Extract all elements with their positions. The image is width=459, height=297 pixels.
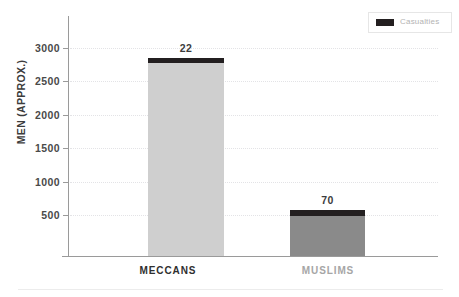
legend-entry-casualties[interactable]: Casualties [376,18,439,26]
bar-muslims[interactable]: 70 [290,16,365,256]
y-tick-2000: 2000 [8,110,60,121]
category-label-muslims: MUSLIMS [270,266,386,276]
bar-muslims-value-label: 70 [290,195,365,206]
bottom-divider [18,289,443,290]
legend[interactable]: Casualties [368,12,452,33]
y-axis-tick-labels: 3000 2500 2000 1500 1000 500 [0,0,60,297]
legend-label-casualties: Casualties [400,18,439,26]
legend-swatch-icon [376,19,394,26]
category-label-meccans: MECCANS [110,266,226,276]
y-tick-1500: 1500 [8,143,60,154]
bar-meccans-value-label: 22 [148,43,224,54]
bar-meccans[interactable]: 22 [148,16,224,256]
y-tick-1000: 1000 [8,177,60,188]
bar-meccans-body [148,59,224,256]
bar-muslims-body [290,211,365,256]
bar-chart: MEN (APPROX.) 3000 2500 2000 1500 1000 5… [0,0,459,297]
bar-muslims-casualties-segment [290,210,365,216]
plot-area: 22 70 [68,16,438,256]
y-tick-3000: 3000 [8,43,60,54]
bar-meccans-casualties-segment [148,58,224,63]
x-axis-line [62,256,438,257]
y-tick-2500: 2500 [8,76,60,87]
y-tick-500: 500 [8,210,60,221]
